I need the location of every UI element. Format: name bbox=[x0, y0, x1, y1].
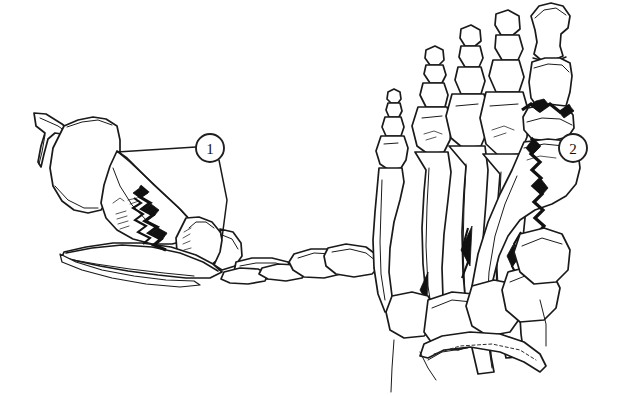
callout-1[interactable]: 1 bbox=[196, 134, 224, 162]
bone-phalanges-lateral bbox=[221, 244, 380, 284]
bone-ray-4 bbox=[412, 46, 452, 320]
panel-dorsal-view: 2 bbox=[373, 3, 587, 392]
anatomical-figure: Foot skeleton fracture illustration bbox=[0, 0, 623, 396]
panel-lateral-view: 1 bbox=[34, 113, 380, 287]
callout-2[interactable]: 2 bbox=[559, 134, 587, 162]
callout-1-label: 1 bbox=[206, 141, 214, 157]
callout-2-label: 2 bbox=[569, 141, 577, 157]
bone-ray-1 bbox=[529, 3, 572, 110]
foot-fracture-illustration: Foot skeleton fracture illustration bbox=[0, 0, 623, 396]
bone-ray-5 bbox=[373, 89, 408, 312]
